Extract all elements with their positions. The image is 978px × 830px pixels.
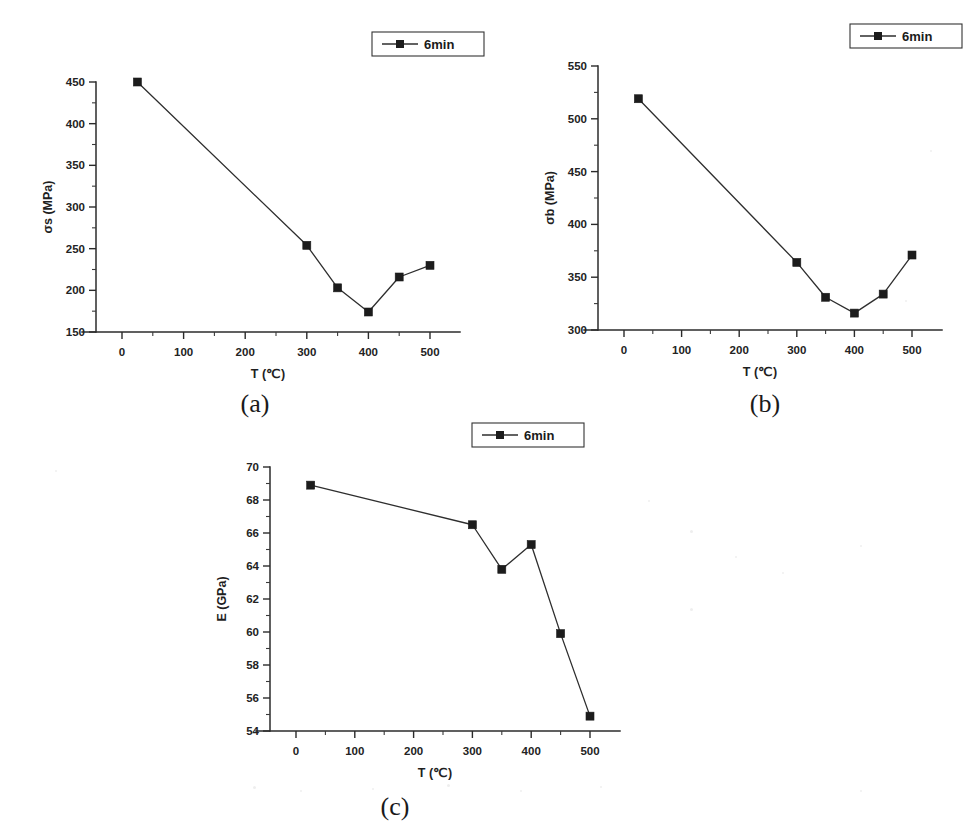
- y-tick-label: 550: [568, 60, 587, 72]
- y-tick-label: 450: [66, 76, 85, 88]
- y-tick-label: 500: [568, 113, 587, 125]
- y-axis-title: σs (MPa): [41, 180, 55, 233]
- legend-sample-marker: [396, 40, 404, 48]
- y-tick-label: 350: [66, 159, 85, 171]
- y-tick-label: 66: [246, 527, 259, 539]
- series-marker-point: [586, 712, 594, 720]
- scan-speck: [860, 790, 862, 792]
- x-axis-title: T (℃): [418, 766, 452, 780]
- x-tick-label: 300: [297, 346, 316, 358]
- series-marker-point: [307, 481, 315, 489]
- x-tick-label: 400: [359, 346, 378, 358]
- series-marker-point: [426, 261, 434, 269]
- figure-panel-b: 3003504004505005500100200300400500T (℃)σ…: [520, 0, 978, 420]
- series-marker-point: [303, 241, 311, 249]
- scan-speck: [782, 572, 784, 574]
- series-marker-point: [793, 258, 801, 266]
- x-tick-label: 500: [420, 346, 439, 358]
- legend-sample-marker: [496, 431, 504, 439]
- series-marker-point: [850, 309, 858, 317]
- x-axis-title: T (℃): [251, 367, 285, 381]
- x-tick-label: 100: [345, 745, 364, 757]
- y-tick-label: 350: [568, 271, 587, 283]
- series-marker-point: [822, 293, 830, 301]
- scan-speck: [860, 545, 862, 547]
- chart-c-svg: 5456586062646668700100200300400500T (℃)E…: [150, 415, 670, 830]
- series-marker-point: [498, 565, 506, 573]
- y-tick-label: 450: [568, 166, 587, 178]
- y-tick-label: 300: [66, 201, 85, 213]
- chart-b-svg: 3003504004505005500100200300400500T (℃)σ…: [520, 0, 978, 420]
- x-tick-label: 200: [404, 745, 423, 757]
- series-line-6min: [137, 82, 430, 312]
- series-line-6min: [311, 485, 590, 716]
- y-tick-label: 56: [246, 692, 259, 704]
- legend-label: 6min: [902, 29, 932, 44]
- series-marker-point: [908, 251, 916, 259]
- legend: 6min: [372, 32, 484, 56]
- scan-speck: [735, 556, 737, 558]
- x-tick-label: 200: [730, 344, 749, 356]
- series-marker-point: [557, 630, 565, 638]
- legend-label: 6min: [524, 428, 554, 443]
- series-marker-point: [879, 290, 887, 298]
- y-tick-label: 400: [568, 218, 587, 230]
- subfigure-caption: (c): [381, 792, 410, 821]
- y-tick-label: 200: [66, 284, 85, 296]
- series-marker-point: [527, 541, 535, 549]
- series-marker-point: [364, 308, 372, 316]
- legend-sample-marker: [874, 32, 882, 40]
- x-tick-label: 0: [119, 346, 125, 358]
- series-marker-point: [634, 95, 642, 103]
- x-axis-title: T (℃): [743, 365, 777, 379]
- series-marker-point: [468, 521, 476, 529]
- y-tick-label: 70: [246, 461, 259, 473]
- y-tick-label: 60: [246, 626, 259, 638]
- x-tick-label: 400: [522, 745, 541, 757]
- y-axis-title: E (GPa): [215, 576, 229, 621]
- scan-speck: [690, 608, 693, 611]
- y-axis-title: σb (MPa): [543, 171, 557, 225]
- chart-a-svg: 1502002503003504004500100200300400500T (…: [0, 0, 520, 420]
- figure-panel-c: 5456586062646668700100200300400500T (℃)E…: [150, 415, 670, 830]
- x-tick-label: 100: [672, 344, 691, 356]
- x-tick-label: 500: [902, 344, 921, 356]
- x-tick-label: 0: [293, 745, 299, 757]
- y-tick-label: 250: [66, 243, 85, 255]
- figure-panel-a: 1502002503003504004500100200300400500T (…: [0, 0, 520, 420]
- legend-label: 6min: [424, 37, 454, 52]
- x-tick-label: 100: [174, 346, 193, 358]
- y-tick-label: 68: [246, 494, 259, 506]
- subfigure-caption: (a): [241, 389, 270, 418]
- y-tick-label: 54: [246, 725, 259, 737]
- y-tick-label: 300: [568, 324, 587, 336]
- legend: 6min: [472, 423, 584, 447]
- series-marker-point: [334, 284, 342, 292]
- x-tick-label: 400: [845, 344, 864, 356]
- subfigure-caption: (b): [750, 389, 780, 418]
- scan-speck: [55, 470, 57, 472]
- x-tick-label: 500: [580, 745, 599, 757]
- series-line-6min: [638, 99, 912, 313]
- y-tick-label: 58: [246, 659, 259, 671]
- x-tick-label: 300: [787, 344, 806, 356]
- x-tick-label: 0: [621, 344, 627, 356]
- legend: 6min: [850, 24, 962, 48]
- series-marker-point: [395, 273, 403, 281]
- y-tick-label: 400: [66, 118, 85, 130]
- series-marker-point: [133, 78, 141, 86]
- scan-speck: [690, 530, 693, 533]
- y-tick-label: 150: [66, 326, 85, 338]
- y-tick-label: 62: [246, 593, 259, 605]
- x-tick-label: 200: [236, 346, 255, 358]
- y-tick-label: 64: [246, 560, 259, 572]
- x-tick-label: 300: [463, 745, 482, 757]
